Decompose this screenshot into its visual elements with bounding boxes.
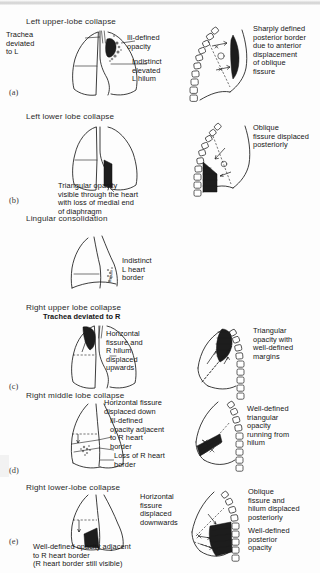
panel-b-frontal-label: Triangular opacity visible through the h…	[58, 182, 163, 216]
panel-a-label-trachea: Trachea deviated to L	[6, 31, 51, 57]
panel-b-letter: (b)	[9, 196, 19, 205]
panel-d-label-fissure: Horizontal fissure displaced down	[104, 399, 176, 416]
vertebrae-column-a	[190, 27, 219, 102]
opacity-wedge-b	[203, 162, 217, 192]
panel-c-lateral-label: Triangular opacity with well-defined mar…	[253, 327, 315, 361]
panel-d-label-loss-border: Loss of R heart border	[114, 452, 176, 469]
scan-artifact-bar	[0, 0, 320, 5]
panel-e-label-fissure: Horizontal fissure displaced downwards	[140, 493, 186, 527]
opacity-wedge-e	[209, 522, 232, 556]
panel-b-heading: Left lower lobe collapse	[26, 112, 114, 121]
panel-lingula-label-heart-border: Indistinct L heart border	[122, 257, 170, 283]
panel-lingula-heading: Lingular consolidation	[26, 214, 108, 223]
panel-d-lateral-label: Well-defined triangular opacity running …	[247, 405, 315, 448]
opacity-triangle-c	[216, 329, 232, 362]
vertebrae-column-d	[227, 401, 243, 471]
panel-e-letter: (e)	[9, 537, 18, 546]
figure-page: Left upper-lobe collapse (a)	[0, 0, 320, 573]
opacity-wedge-d	[197, 434, 222, 456]
panel-c-label-trachea: Trachea deviated to R	[43, 313, 158, 322]
opacity-blob-a	[106, 35, 122, 62]
panel-a-heading: Left upper-lobe collapse	[26, 17, 116, 26]
panel-b-lateral-label: Oblique fissure displaced posteriorly	[253, 124, 317, 150]
panel-c-lateral-diagram	[184, 320, 264, 400]
scan-artifact-left	[0, 455, 9, 477]
panel-e-heading: Right lower-lobe collapse	[26, 483, 120, 492]
panel-c-letter: (c)	[9, 382, 18, 391]
panel-d-letter: (d)	[9, 466, 19, 475]
panel-c-label-fissure: Horizontal fissure and R hilum displaced…	[106, 330, 154, 373]
panel-c-heading: Right upper lobe collapse	[26, 303, 121, 312]
panel-a-label-opacity: Ill-defined opacity	[127, 34, 175, 51]
panel-a-label-hilum: Indistinct elevated L hilum	[132, 58, 180, 84]
panel-e-lateral-label-fissure: Oblique fissure and hilum displaced post…	[248, 488, 318, 522]
panel-a-letter: (a)	[9, 88, 18, 97]
panel-e-lateral-label-opacity: Well-defined posterior opacity	[248, 527, 310, 553]
panel-a-lateral-label: Sharply defined posterior border due to …	[253, 25, 319, 77]
panel-e-label-opacity: Well-defined opacity adjacent to R heart…	[33, 543, 168, 569]
panel-d-label-opacity: Ill-defined opacity adjacent to R heart …	[110, 417, 172, 451]
